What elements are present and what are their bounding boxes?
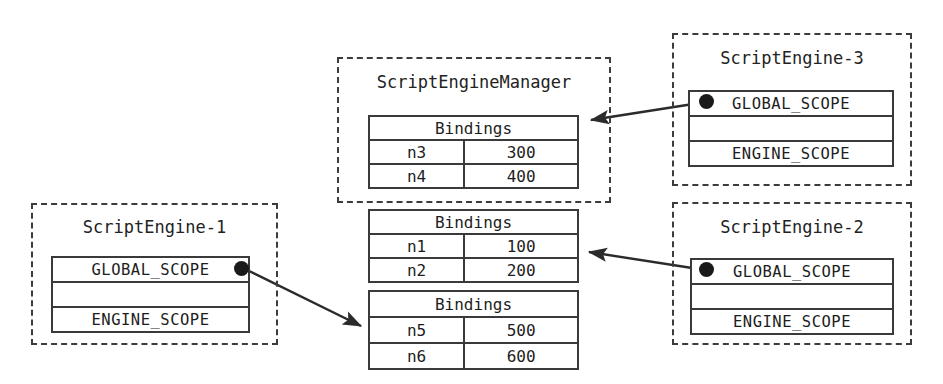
binding-value: 600	[465, 344, 577, 368]
empty-scope-label	[692, 285, 892, 308]
binding-key: n5	[370, 318, 465, 342]
binding-value: 400	[465, 165, 577, 187]
global-scope-label: GLOBAL_SCOPE	[53, 258, 248, 281]
scriptengine-1-title: ScriptEngine-1	[33, 217, 276, 237]
global-scope-label: GLOBAL_SCOPE	[690, 92, 892, 115]
scope-row-global: GLOBAL_SCOPE	[53, 258, 248, 283]
binding-value: 300	[465, 141, 577, 163]
binding-key: n4	[370, 165, 465, 187]
global-scope-label: GLOBAL_SCOPE	[692, 260, 892, 283]
empty-scope-label	[53, 283, 248, 306]
table-row: n1 100	[370, 235, 577, 259]
empty-scope-label	[690, 117, 892, 140]
shared-bindings-table-1: Bindings n1 100 n2 200	[368, 209, 579, 283]
table-header-row: Bindings	[370, 211, 577, 235]
engine-scope-label: ENGINE_SCOPE	[690, 142, 892, 165]
table-header-row: Bindings	[370, 292, 577, 318]
manager-bindings-table: Bindings n3 300 n4 400	[368, 115, 579, 189]
scriptengine-3-global-scope-anchor-dot	[699, 94, 714, 109]
bindings-header-label: Bindings	[370, 119, 577, 138]
scope-row-empty	[53, 283, 248, 308]
table-row: n6 600	[370, 344, 577, 368]
scope-row-engine: ENGINE_SCOPE	[53, 308, 248, 331]
binding-value: 200	[465, 259, 577, 281]
table-row: n3 300	[370, 141, 577, 165]
table-row: n2 200	[370, 259, 577, 281]
scope-row-empty	[692, 285, 892, 310]
scriptengine-2-scope-table: GLOBAL_SCOPE ENGINE_SCOPE	[690, 258, 894, 335]
diagram-canvas: ScriptEngineManager Bindings n3 300 n4 4…	[0, 0, 943, 384]
binding-key: n6	[370, 344, 465, 368]
scriptengine-1-scope-table: GLOBAL_SCOPE ENGINE_SCOPE	[51, 256, 250, 333]
bindings-header-label: Bindings	[370, 295, 577, 314]
scope-row-engine: ENGINE_SCOPE	[690, 142, 892, 165]
scope-row-empty	[690, 117, 892, 142]
scriptengine-2-title: ScriptEngine-2	[674, 217, 910, 237]
binding-key: n3	[370, 141, 465, 163]
scriptengine-1-global-scope-anchor-dot	[234, 261, 249, 276]
engine-scope-label: ENGINE_SCOPE	[692, 310, 892, 333]
scope-row-engine: ENGINE_SCOPE	[692, 310, 892, 333]
scriptengine-3-title: ScriptEngine-3	[674, 48, 910, 68]
table-row: n4 400	[370, 165, 577, 187]
scope-row-global: GLOBAL_SCOPE	[690, 92, 892, 117]
table-row: n5 500	[370, 318, 577, 344]
shared-bindings-table-2: Bindings n5 500 n6 600	[368, 290, 579, 370]
engine-scope-label: ENGINE_SCOPE	[53, 308, 248, 331]
bindings-header-label: Bindings	[370, 213, 577, 232]
binding-key: n2	[370, 259, 465, 281]
binding-key: n1	[370, 235, 465, 257]
scriptengine-3-scope-table: GLOBAL_SCOPE ENGINE_SCOPE	[688, 90, 894, 167]
table-header-row: Bindings	[370, 117, 577, 141]
scriptenginemanager-title: ScriptEngineManager	[339, 72, 609, 92]
binding-value: 500	[465, 318, 577, 342]
binding-value: 100	[465, 235, 577, 257]
scriptengine-2-global-scope-anchor-dot	[699, 262, 714, 277]
scope-row-global: GLOBAL_SCOPE	[692, 260, 892, 285]
